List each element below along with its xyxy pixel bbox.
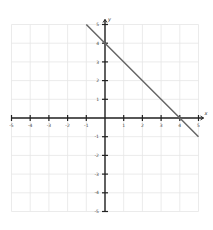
y-tick-label: 3 bbox=[96, 60, 99, 65]
y-tick-label: 1 bbox=[96, 97, 99, 102]
axes: xy bbox=[12, 16, 208, 212]
x-axis-label: x bbox=[204, 110, 208, 116]
x-tick-label: 3 bbox=[160, 123, 163, 128]
x-tick-label: -5 bbox=[9, 123, 14, 128]
x-tick-label: -1 bbox=[84, 123, 89, 128]
y-tick-label: 5 bbox=[96, 22, 99, 27]
x-tick-label: 5 bbox=[197, 123, 200, 128]
y-tick-label: -3 bbox=[95, 172, 100, 177]
x-tick-label: -3 bbox=[47, 123, 52, 128]
x-tick-label: -2 bbox=[65, 123, 70, 128]
y-tick-label: -2 bbox=[95, 153, 100, 158]
x-tick-label: 2 bbox=[141, 123, 144, 128]
y-tick-label: -4 bbox=[95, 190, 100, 195]
y-tick-label: -1 bbox=[95, 134, 100, 139]
x-tick-label: 1 bbox=[122, 123, 125, 128]
x-tick-label: 4 bbox=[178, 123, 181, 128]
y-tick-label: 2 bbox=[96, 78, 99, 83]
y-axis-label: y bbox=[107, 16, 112, 23]
y-tick-label: -5 bbox=[95, 209, 100, 214]
x-tick-label: -4 bbox=[28, 123, 33, 128]
coordinate-plane: xy -5-4-3-2-112345-5-4-3-2-112345 bbox=[0, 0, 213, 230]
y-tick-label: 4 bbox=[96, 41, 99, 46]
